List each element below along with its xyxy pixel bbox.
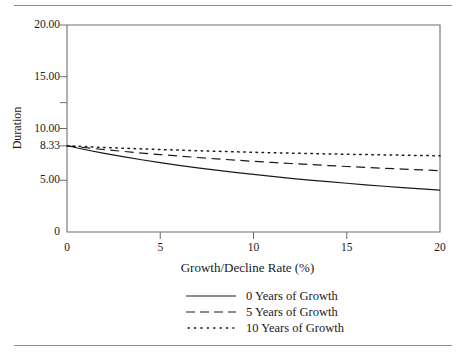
- legend-item: 10 Years of Growth: [67, 320, 428, 336]
- x-tick-label: 15: [327, 242, 367, 254]
- x-tick-label: 5: [140, 242, 180, 254]
- series-line: [67, 146, 440, 190]
- plot-frame: [67, 25, 440, 232]
- y-axis-title: Duration: [11, 93, 23, 163]
- x-tick-label: 10: [234, 242, 274, 254]
- legend-item: 0 Years of Growth: [67, 288, 428, 304]
- y-axis-ticks: [60, 25, 67, 180]
- y-tick-label: 20.00: [16, 19, 60, 31]
- legend-key-dashed-icon: [185, 306, 237, 318]
- series-line: [67, 146, 440, 171]
- legend-label: 5 Years of Growth: [246, 306, 338, 319]
- y-tick-label: 5.00: [16, 174, 60, 186]
- x-tick-label: 20: [420, 242, 460, 254]
- x-tick-label: 0: [47, 242, 87, 254]
- legend-key-solid-icon: [185, 290, 237, 302]
- y-tick-label: 0: [16, 226, 60, 238]
- legend: 0 Years of Growth 5 Years of Growth 10 Y…: [67, 288, 428, 336]
- data-series-group: [67, 146, 440, 190]
- legend-label: 0 Years of Growth: [246, 290, 338, 303]
- legend-label: 10 Years of Growth: [246, 322, 344, 335]
- legend-key-dotted-icon: [185, 322, 237, 334]
- x-axis-title: Growth/Decline Rate (%): [67, 260, 428, 276]
- figure: 05.008.3310.0015.0020.00 05101520 Durati…: [0, 0, 466, 359]
- series-line: [67, 146, 440, 156]
- y-tick-label: 15.00: [16, 71, 60, 83]
- x-axis-ticks: [160, 232, 347, 239]
- legend-item: 5 Years of Growth: [67, 304, 428, 320]
